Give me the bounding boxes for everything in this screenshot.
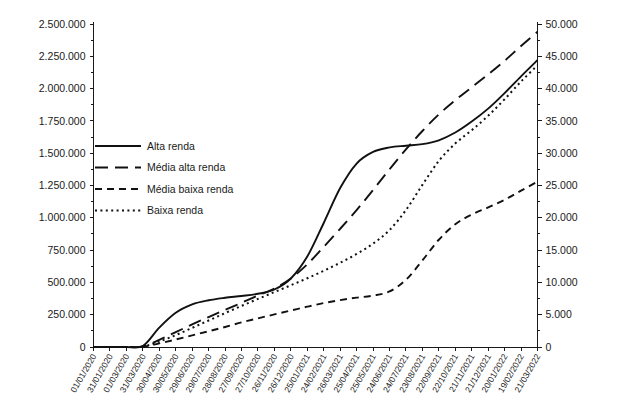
left-axis-tick-label: 2.000.000 (39, 82, 86, 94)
left-axis-tick-label: 2.500.000 (39, 18, 86, 30)
left-axis-tick-label: 1.250.000 (39, 179, 86, 191)
line-chart: 0250.000500.000750.0001.000.0001.250.000… (0, 0, 626, 418)
legend-label-0: Alta renda (147, 140, 195, 152)
left-axis-tick-label: 250.000 (48, 308, 86, 320)
left-axis-tick-label: 500.000 (48, 276, 86, 288)
right-axis-tick-label: 50.000 (546, 18, 578, 30)
left-axis-tick-label: 1.500.000 (39, 147, 86, 159)
right-axis-tick-label: 5.000 (546, 308, 572, 320)
right-axis-tick-label: 0 (546, 341, 552, 353)
right-axis-tick-label: 30.000 (546, 147, 578, 159)
legend-label-2: Média baixa renda (147, 183, 234, 195)
legend-label-1: Média alta renda (147, 161, 225, 173)
chart-container: 0250.000500.000750.0001.000.0001.250.000… (0, 0, 626, 418)
left-axis-tick-label: 750.000 (48, 244, 86, 256)
right-axis-tick-label: 40.000 (546, 82, 578, 94)
left-axis-tick-label: 1.750.000 (39, 115, 86, 127)
left-axis-tick-label: 0 (80, 341, 86, 353)
left-axis-tick-label: 1.000.000 (39, 211, 86, 223)
right-axis-tick-label: 45.000 (546, 50, 578, 62)
left-axis-tick-label: 2.250.000 (39, 50, 86, 62)
legend-label-3: Baixa renda (147, 204, 203, 216)
right-axis-tick-label: 15.000 (546, 244, 578, 256)
right-axis-tick-label: 35.000 (546, 115, 578, 127)
right-axis-tick-label: 10.000 (546, 276, 578, 288)
right-axis-tick-label: 20.000 (546, 211, 578, 223)
right-axis-tick-label: 25.000 (546, 179, 578, 191)
